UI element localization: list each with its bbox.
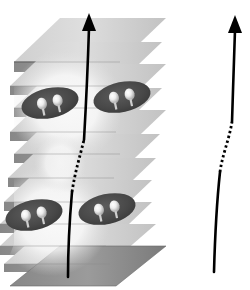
figure-root: Layered slab block with embedded two-sph… <box>0 0 250 290</box>
glow-region-waist <box>34 133 86 193</box>
diagram-canvas: Layered slab block with embedded two-sph… <box>0 0 250 290</box>
